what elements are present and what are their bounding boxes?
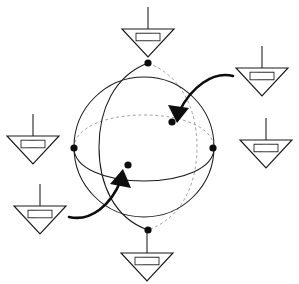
arrow-upper-right: [179, 75, 233, 112]
left-equator-node: [70, 144, 77, 151]
detector-top[interactable]: [122, 7, 174, 57]
figure-canvas: [0, 0, 299, 284]
south-pole-node: [144, 226, 151, 233]
detector-bottom-bar-frame: [135, 257, 159, 265]
detector-bottom-left-bar-frame: [28, 210, 52, 218]
arrow-lower-left: [69, 180, 121, 218]
lower-interior-node: [124, 161, 131, 168]
vertical-great-circle-back-arc: [148, 63, 197, 230]
equator-front-arc: [74, 148, 214, 181]
detector-bottom-left[interactable]: [14, 184, 66, 234]
detector-left[interactable]: [7, 114, 59, 164]
sphere-hidden-lines: [74, 63, 214, 230]
detector-right[interactable]: [240, 118, 292, 168]
detector-bottom[interactable]: [121, 231, 173, 281]
sphere-nodes: [70, 59, 216, 233]
detector-layer: [7, 7, 292, 281]
detector-top-right[interactable]: [236, 46, 288, 96]
north-pole-node: [144, 59, 151, 66]
detector-right-bar-frame: [254, 144, 278, 152]
sphere-outline: [74, 77, 214, 217]
detector-left-bar-frame: [21, 140, 45, 148]
detector-top-right-bar-frame: [250, 72, 274, 80]
detector-top-bar-frame: [136, 33, 160, 41]
sphere-front-lines: [74, 63, 214, 230]
bloch-sphere-figure: [0, 0, 299, 284]
equator-back-arc: [74, 115, 214, 148]
right-equator-node: [209, 144, 216, 151]
upper-interior-node: [168, 118, 175, 125]
annotation-arrows: [69, 75, 233, 218]
